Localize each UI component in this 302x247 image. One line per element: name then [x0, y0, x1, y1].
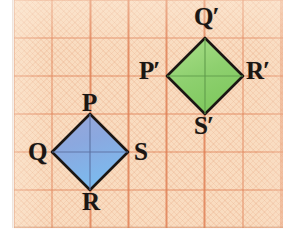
vertex-label-p-prime: P′	[139, 58, 160, 83]
paper-left-edge	[12, 0, 15, 228]
vertex-label-q-prime-letter: Q	[194, 3, 213, 30]
paper-texture	[14, 0, 283, 228]
vertex-label-s-prime: S′	[194, 113, 214, 138]
vertex-label-r: R	[82, 189, 100, 214]
prime-mark-q: ′	[212, 3, 219, 30]
prime-mark-p: ′	[153, 57, 160, 84]
paper-bottom-edge	[14, 226, 283, 229]
grid-paper-panel	[14, 0, 283, 228]
vertex-label-q-prime: Q′	[194, 4, 219, 29]
vertex-label-q: Q	[28, 139, 47, 164]
vertex-label-r-prime-letter: R	[246, 57, 264, 84]
prime-mark-r: ′	[263, 57, 270, 84]
vertex-label-r-prime: R′	[246, 58, 270, 83]
vertex-label-s-prime-letter: S	[194, 112, 208, 139]
prime-mark-s: ′	[207, 112, 214, 139]
paper-shading	[14, 0, 283, 228]
vertex-label-s: S	[134, 139, 148, 164]
vertex-label-p-prime-letter: P	[139, 57, 154, 84]
geometry-figure: P Q S R Q′ P′ R′ S′	[0, 0, 302, 247]
vertex-label-p: P	[82, 90, 97, 115]
grid-lines	[14, 0, 283, 228]
